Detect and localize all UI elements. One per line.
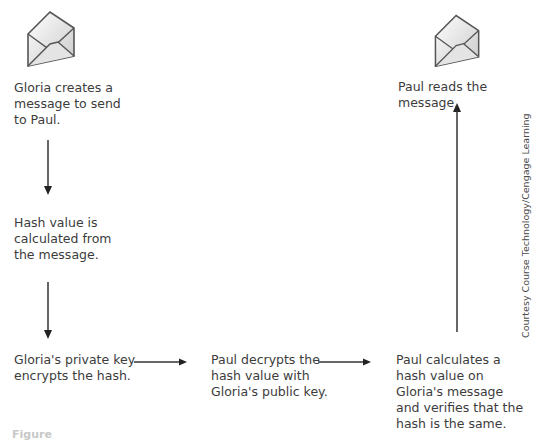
arrow-right-icon: [318, 357, 372, 367]
step-line: hash value on: [396, 368, 526, 384]
arrow-down-icon: [42, 282, 54, 340]
image-credit: Courtesy Course Technology/Cengage Learn…: [520, 113, 531, 338]
arrow-right-icon: [134, 357, 188, 367]
step-line: encrypts the hash.: [14, 368, 144, 384]
step-private-key-encrypts: Gloria's private key encrypts the hash.: [14, 352, 144, 384]
step-line: to Paul.: [14, 112, 134, 128]
arrow-down-icon: [42, 140, 54, 196]
step-gloria-creates-message: Gloria creates a message to send to Paul…: [14, 80, 134, 128]
arrow-up-icon: [451, 102, 463, 332]
step-line: Gloria's public key.: [211, 384, 331, 400]
step-line: Paul calculates a: [396, 352, 526, 368]
step-line: Paul reads the message.: [398, 79, 538, 111]
step-line: calculated from: [14, 231, 134, 247]
step-line: message to send: [14, 96, 134, 112]
step-line: Hash value is: [14, 215, 134, 231]
step-line: hash is the same.: [396, 416, 526, 432]
step-hash-calculated: Hash value is calculated from the messag…: [14, 215, 134, 263]
step-line: Gloria's private key: [14, 352, 144, 368]
step-paul-decrypts: Paul decrypts the hash value with Gloria…: [211, 352, 331, 400]
step-line: Paul decrypts the: [211, 352, 331, 368]
step-line: Gloria creates a: [14, 80, 134, 96]
step-line: the message.: [14, 247, 134, 263]
step-line: hash value with: [211, 368, 331, 384]
step-paul-reads-message: Paul reads the message.: [398, 79, 538, 111]
step-line: and verifies that the: [396, 400, 526, 416]
step-paul-calculates-and-verifies: Paul calculates a hash value on Gloria's…: [396, 352, 526, 432]
step-line: Gloria's message: [396, 384, 526, 400]
envelope-icon-gloria: [26, 4, 78, 70]
figure-caption: Figure: [12, 428, 52, 440]
envelope-icon-paul: [432, 8, 484, 70]
